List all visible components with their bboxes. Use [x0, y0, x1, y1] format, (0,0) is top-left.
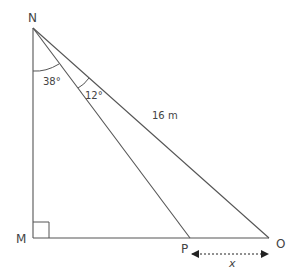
angle-arc-12	[78, 78, 89, 88]
side-NO	[33, 28, 269, 238]
side-NP	[33, 28, 190, 238]
diagram-lines	[0, 0, 299, 278]
triangle-diagram: N M P O 38° 12° 16 m x	[0, 0, 299, 278]
angle-arc-38	[33, 64, 59, 71]
vertex-label-N: N	[28, 12, 37, 24]
right-angle-mark	[33, 222, 49, 238]
length-label-NO: 16 m	[152, 111, 178, 121]
vertex-label-M: M	[16, 233, 26, 245]
vertex-label-O: O	[276, 238, 285, 250]
unknown-label-x: x	[229, 258, 236, 269]
vertex-label-P: P	[181, 243, 188, 255]
angle-label-38: 38°	[43, 77, 61, 87]
angle-label-12: 12°	[85, 91, 103, 101]
